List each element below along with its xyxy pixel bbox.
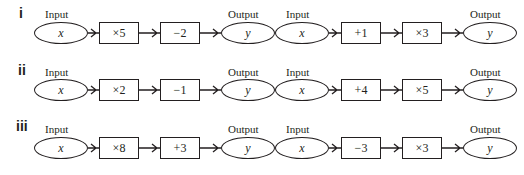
arrow-row-ii: [88, 86, 463, 94]
arrow-row-iii: [88, 144, 463, 152]
connector-arrows: [0, 0, 524, 175]
arrow-row-i: [88, 29, 463, 37]
